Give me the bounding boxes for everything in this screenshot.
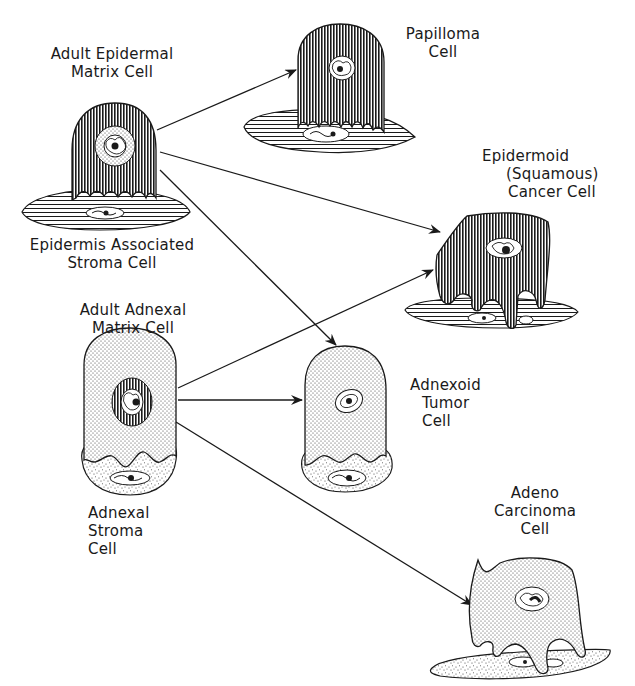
label-adnexal-stroma-cell: Adnexal Stroma Cell: [88, 504, 150, 558]
label-line: Cell: [398, 43, 488, 61]
adult-adnexal-matrix-cell-shape: [84, 328, 176, 467]
arrow-epidermal-to-epidermoid: [160, 152, 440, 232]
epidermis-stroma-cell-shape: [22, 190, 190, 230]
label-adnexoid-tumor-cell: Adnexoid Tumor Cell: [410, 376, 481, 430]
label-epidermoid-squamous-cancer-cell: Epidermoid (Squamous) Cancer Cell: [482, 147, 599, 201]
label-line: Cancer Cell: [482, 183, 599, 201]
label-line: Cell: [410, 412, 481, 430]
arrow-adnexal-to-epidermoid: [178, 270, 433, 388]
label-adult-epidermal-matrix-cell: Adult Epidermal Matrix Cell: [32, 45, 192, 81]
label-epidermis-associated-stroma-cell: Epidermis Associated Stroma Cell: [12, 236, 212, 272]
label-papilloma-cell: Papilloma Cell: [398, 25, 488, 61]
label-adeno-carcinoma-cell: Adeno Carcinoma Cell: [475, 484, 595, 538]
label-line: Epidermoid: [482, 147, 599, 165]
label-line: Papilloma: [398, 25, 488, 43]
label-line: Adult Adnexal: [58, 301, 208, 319]
adult-epidermal-matrix-cell-shape: [72, 103, 156, 200]
label-line: Matrix Cell: [32, 63, 192, 81]
papilloma-cell-shape: [298, 24, 384, 132]
label-line: Matrix Cell: [58, 319, 208, 337]
label-line: Epidermis Associated: [12, 236, 212, 254]
label-line: Stroma: [88, 522, 150, 540]
label-adult-adnexal-matrix-cell: Adult Adnexal Matrix Cell: [58, 301, 208, 337]
label-line: Adeno: [475, 484, 595, 502]
label-line: Adult Epidermal: [32, 45, 192, 63]
label-line: (Squamous): [482, 165, 599, 183]
label-line: Cell: [475, 520, 595, 538]
label-line: Adnexoid: [410, 376, 481, 394]
label-line: Cell: [88, 540, 150, 558]
epidermoid-stroma-shape: [405, 298, 578, 328]
label-line: Tumor: [410, 394, 481, 412]
cell-lineage-diagram: [0, 0, 635, 686]
label-line: Carcinoma: [475, 502, 595, 520]
label-line: Adnexal: [88, 504, 150, 522]
label-line: Stroma Cell: [12, 254, 212, 272]
adnexoid-tumor-cell-shape: [305, 346, 386, 465]
